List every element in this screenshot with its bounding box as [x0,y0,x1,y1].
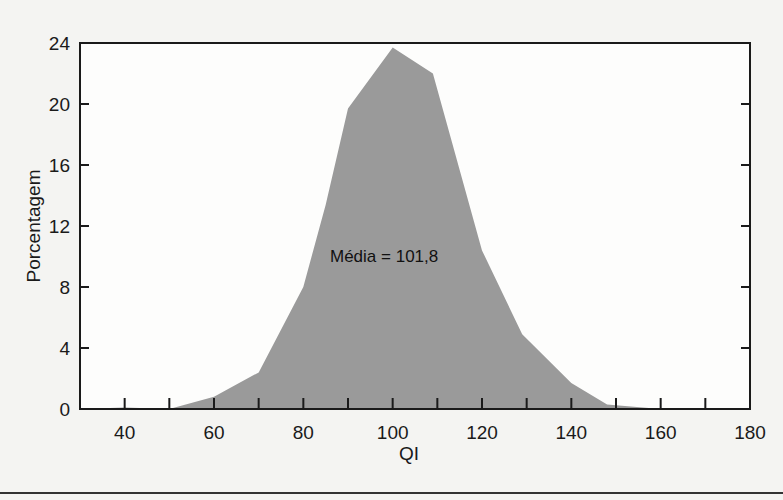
x-tick-label: 60 [203,422,224,443]
y-tick-label: 0 [59,399,70,420]
y-tick-label: 16 [49,155,70,176]
x-tick-label: 120 [466,422,498,443]
x-axis-title: QI [399,443,419,464]
x-tick-label: 140 [555,422,587,443]
y-tick-label: 8 [59,277,70,298]
distribution-area [80,48,750,409]
x-tick-label: 180 [734,422,766,443]
y-tick-label: 4 [59,338,70,359]
y-tick-label: 24 [49,33,71,54]
mean-annotation: Média = 101,8 [330,247,438,266]
y-axis-title: Porcentagem [23,169,44,282]
x-tick-label: 40 [114,422,135,443]
y-tick-label: 12 [49,216,70,237]
page-rule [0,492,783,494]
area-chart: 04812162024 406080100120140160180 Porcen… [0,0,783,500]
area-fill [80,48,750,409]
x-tick-label: 100 [377,422,409,443]
x-tick-label: 160 [645,422,677,443]
x-tick-label: 80 [293,422,314,443]
y-tick-label: 20 [49,94,70,115]
